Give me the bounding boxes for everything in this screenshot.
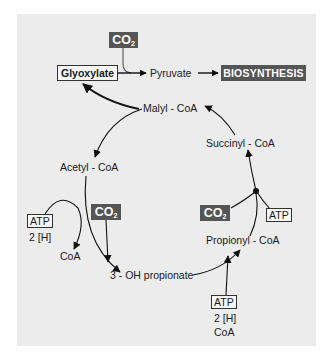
propionyl-coa-label: Propionyl - CoA bbox=[206, 234, 280, 246]
co2-left-box: CO2 bbox=[91, 204, 121, 220]
oh-propionate-label: 3 - OH propionate bbox=[110, 269, 193, 281]
malyl-coa-label: Malyl - CoA bbox=[143, 102, 197, 114]
co2-label: CO bbox=[204, 206, 223, 220]
pathway-arrows bbox=[0, 0, 328, 361]
co2-subscript: 2 bbox=[222, 213, 226, 220]
h2-left-label: 2 [H] bbox=[29, 231, 51, 243]
junction-dot bbox=[253, 188, 259, 194]
co2-label: CO bbox=[95, 205, 114, 219]
h2-bottom-label: 2 [H] bbox=[214, 312, 236, 324]
co2-subscript: 2 bbox=[113, 212, 117, 219]
co2-top-box: CO2 bbox=[109, 32, 138, 48]
biosynthesis-box: BIOSYNTHESIS bbox=[221, 65, 306, 81]
co2-subscript: 2 bbox=[131, 40, 135, 47]
pyruvate-label: Pyruvate bbox=[150, 67, 191, 79]
succinyl-coa-label: Succinyl - CoA bbox=[206, 137, 275, 149]
acetyl-coa-label: Acetyl - CoA bbox=[60, 161, 118, 173]
atp-bottom-box: ATP bbox=[211, 295, 237, 309]
coa-left-label: CoA bbox=[60, 250, 80, 262]
glyoxylate-box: Glyoxylate bbox=[57, 65, 118, 81]
co2-label: CO bbox=[112, 33, 131, 47]
coa-bottom-label: CoA bbox=[214, 326, 234, 338]
co2-right-box: CO2 bbox=[200, 205, 230, 221]
atp-left-box: ATP bbox=[27, 214, 53, 228]
atp-right-box: ATP bbox=[266, 208, 292, 222]
